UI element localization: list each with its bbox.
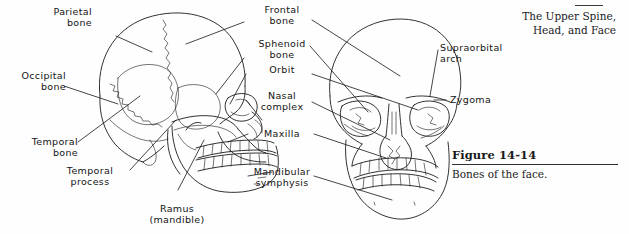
label-parietal-bone: Parietal bone: [14, 6, 92, 28]
running-head-line2: Head, and Face: [446, 24, 616, 38]
label-supraorbital-arch: Supraorbital arch: [440, 42, 536, 64]
running-head-line1: The Upper Spine,: [446, 10, 616, 24]
label-mandibular-symphysis: Mandibular symphysis: [238, 166, 326, 188]
running-head: The Upper Spine, Head, and Face: [446, 10, 616, 37]
figure-caption-block: Figure 14-14 Bones of the face.: [452, 148, 618, 181]
label-ramus-mandible: Ramus (mandible): [130, 203, 224, 225]
figure-number: Figure 14-14: [452, 148, 618, 164]
label-temporal-process: Temporal process: [46, 165, 134, 187]
label-sphenoid-bone: Sphenoid bone: [246, 38, 318, 60]
label-nasal-complex: Nasal complex: [244, 90, 320, 112]
label-zygoma: Zygoma: [450, 94, 520, 105]
figure-caption-rule: [452, 164, 618, 165]
label-frontal-bone: Frontal bone: [248, 4, 316, 26]
figure-caption-text: Bones of the face.: [452, 168, 618, 181]
label-occipital-bone: Occipital bone: [0, 70, 66, 92]
label-temporal-bone: Temporal bone: [0, 136, 78, 158]
label-maxilla: Maxilla: [248, 128, 316, 139]
running-head-rule: [575, 5, 603, 6]
label-orbit: Orbit: [250, 64, 314, 75]
figure-page: Parietal bone Occipital bone Temporal bo…: [0, 0, 629, 234]
